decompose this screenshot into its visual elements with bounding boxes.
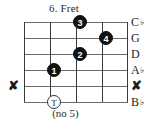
- fret-line-0: [24, 22, 25, 102]
- string-label-4-name: A: [131, 63, 140, 77]
- string-label-6: B♭: [131, 96, 144, 108]
- string-label-1-accidental: ♭: [140, 17, 144, 27]
- string-label-5-name: ✘: [131, 78, 142, 93]
- string-label-2: G: [131, 32, 140, 44]
- fret-line-4: [127, 22, 128, 102]
- string-line-6: [24, 102, 128, 103]
- string-label-3: D: [131, 48, 140, 60]
- chord-diagram: 6. Fret 3 4 2 1 T ✘ C♭ G D A♭: [0, 0, 157, 128]
- page-title: 6. Fret: [0, 2, 128, 14]
- finger-dot-4[interactable]: 4: [99, 31, 113, 45]
- fretboard-grid: 3 4 2 1 T: [24, 22, 128, 102]
- string-label-2-name: G: [131, 31, 140, 45]
- fret-line-1: [50, 22, 51, 102]
- chord-caption: (no 5): [0, 107, 131, 119]
- finger-dot-1[interactable]: 1: [47, 63, 61, 77]
- fret-line-2: [76, 22, 77, 102]
- string-label-1: C♭: [131, 16, 144, 28]
- string-label-3-name: D: [131, 47, 140, 61]
- string-label-6-name: B: [131, 95, 139, 109]
- string-label-1-name: C: [131, 15, 139, 29]
- string-label-4-accidental: ♭: [140, 65, 144, 75]
- finger-dot-2[interactable]: 2: [73, 47, 87, 61]
- string-label-5-mute-icon: ✘: [131, 79, 142, 92]
- string-label-6-accidental: ♭: [140, 97, 144, 107]
- string-label-column: C♭ G D A♭ ✘ B♭: [131, 16, 157, 108]
- mute-marker-icon: ✘: [8, 79, 19, 92]
- string-label-4: A♭: [131, 64, 144, 76]
- finger-dot-3[interactable]: 3: [73, 15, 87, 29]
